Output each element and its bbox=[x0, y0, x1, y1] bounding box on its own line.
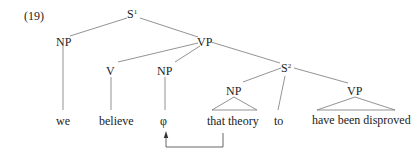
edge-s2-vp bbox=[294, 68, 348, 83]
tree-svg: (19) S1 NP VP V NP S2 NP VP we believe φ… bbox=[0, 0, 418, 157]
node-vp-embedded: VP bbox=[347, 84, 363, 98]
node-vp-main: VP bbox=[197, 35, 213, 49]
node-np-empty: NP bbox=[157, 64, 173, 78]
arrow-path bbox=[166, 133, 223, 147]
leaf-to: to bbox=[274, 114, 283, 128]
node-np-theory: NP bbox=[226, 84, 242, 98]
edge-s2-np bbox=[243, 68, 281, 82]
leaf-that-theory: that theory bbox=[207, 114, 259, 128]
example-number: (19) bbox=[24, 9, 44, 23]
node-v: V bbox=[106, 64, 115, 78]
syntax-tree-diagram: (19) S1 NP VP V NP S2 NP VP we believe φ… bbox=[0, 0, 418, 157]
movement-arrow bbox=[164, 131, 223, 147]
leaf-have-been-disproved: have been disproved bbox=[312, 113, 411, 127]
node-np-subject: NP bbox=[56, 35, 72, 49]
edge-s2-to bbox=[278, 76, 285, 110]
triangle-np-theory bbox=[212, 97, 257, 110]
edge-s1-vp bbox=[140, 18, 198, 37]
edge-vp-s2 bbox=[211, 42, 280, 63]
node-s1: S1 bbox=[127, 7, 138, 21]
leaf-believe: believe bbox=[99, 114, 134, 128]
arrow-head-icon bbox=[164, 131, 168, 138]
leaf-we: we bbox=[56, 114, 70, 128]
node-s2: S2 bbox=[281, 61, 292, 75]
leaf-phi: φ bbox=[160, 114, 167, 128]
edge-vp-v bbox=[118, 43, 198, 62]
triangle-vp-embedded bbox=[317, 97, 395, 110]
edge-s1-np bbox=[70, 18, 127, 36]
